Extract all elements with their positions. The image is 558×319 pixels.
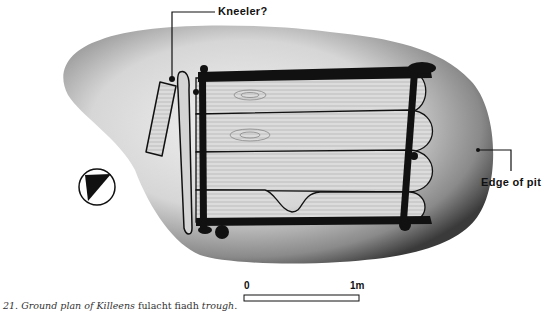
left-stake (199, 78, 207, 228)
ground-plan-figure: Kneeler? Edge of pit 0 1m 21. Ground pla… (0, 0, 558, 319)
floor-planks (196, 72, 433, 222)
scale-start-label: 0 (244, 280, 250, 291)
scale-bar (244, 295, 359, 301)
caption-part-2: fulacht fiadh (138, 300, 199, 311)
trough-plan-drawing (0, 0, 558, 319)
scale-end-label: 1m (350, 280, 364, 291)
north-arrow-icon (79, 169, 115, 205)
figure-caption: 21. Ground plan of Killeens fulacht fiad… (3, 300, 237, 311)
caption-part-1: 21. Ground plan of Killeens (3, 300, 138, 311)
edge-of-pit-label: Edge of pit (481, 176, 541, 188)
caption-part-3: trough. (199, 300, 237, 311)
kneeler-label: Kneeler? (218, 5, 267, 17)
